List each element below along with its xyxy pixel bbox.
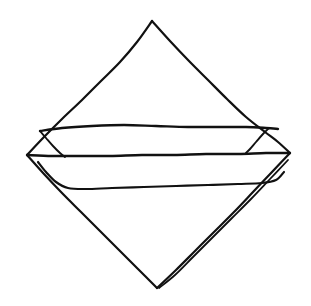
- band-top-line: [40, 125, 278, 131]
- upper-right-edge: [152, 21, 290, 153]
- lower-right-edge-outer: [157, 153, 290, 288]
- band-right-flap: [246, 128, 269, 153]
- band-bottom-line: [38, 162, 284, 189]
- napkin-line-drawing: Folded Napkin Line Drawing: [0, 0, 311, 306]
- upper-left-edge: [27, 21, 152, 155]
- sketch-canvas: Folded Napkin Line Drawing: [0, 0, 311, 306]
- lower-left-edge: [27, 155, 157, 288]
- band-left-flap: [40, 131, 65, 157]
- stroke-group: [27, 21, 290, 288]
- band-middle-line: [27, 153, 290, 156]
